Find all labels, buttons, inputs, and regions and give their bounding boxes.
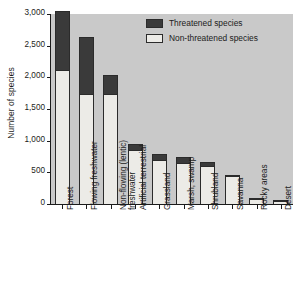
x-axis-tick-label: Marsh, swamp <box>187 157 196 210</box>
y-axis-title: Number of species <box>2 0 20 206</box>
x-axis-labels: ForestFlowing freshwaterNon-flowing (len… <box>50 205 293 295</box>
legend-color-swatch <box>146 19 163 28</box>
x-axis-tick-mark <box>135 205 136 209</box>
x-axis-tick-label-line: Flowing freshwater <box>90 141 99 210</box>
x-axis-tick-label: Grassland <box>163 173 172 210</box>
x-axis-tick-mark <box>232 205 233 209</box>
y-axis: 05001,0001,5002,0002,5003,000 <box>20 14 50 206</box>
x-axis-tick-label-line: Forest <box>66 187 75 210</box>
bar-segment-threatened[interactable] <box>225 175 240 176</box>
x-axis-tick-label-line: Artificial terrestrial <box>139 145 148 210</box>
legend-entry-label: Non-threatened species <box>169 33 258 43</box>
legend-color-swatch <box>146 34 163 43</box>
x-axis-tick-label-line: Rocky areas <box>260 164 269 210</box>
x-axis-tick-label: Flowing freshwater <box>90 141 99 210</box>
y-axis-tick-label: 2,500 <box>25 40 46 49</box>
x-axis-tick-label-line: Grassland <box>163 173 172 210</box>
y-axis-tick-label: 3,000 <box>25 8 46 17</box>
y-axis-tick-label: 1,500 <box>25 103 46 112</box>
x-axis-tick-label: Savanna <box>236 178 245 210</box>
y-axis-tick-label: 1,000 <box>25 135 46 144</box>
legend-entry: Threatened species <box>146 18 296 28</box>
bar-group[interactable] <box>103 75 118 204</box>
y-axis-tick-label: 500 <box>31 166 45 175</box>
chart-figure: Number of species 05001,0001,5002,0002,5… <box>0 0 304 296</box>
bar-segment-threatened[interactable] <box>55 11 70 71</box>
y-axis-tick-label: 0 <box>40 198 45 207</box>
x-axis-tick-mark <box>208 205 209 209</box>
bar-segment-non-threatened[interactable] <box>55 70 70 204</box>
chart-legend: Threatened speciesNon-threatened species <box>146 18 296 48</box>
y-axis-tick-label: 2,000 <box>25 71 46 80</box>
x-axis-tick-label: Shrubland <box>211 173 220 210</box>
x-axis-tick-label-line: Shrubland <box>211 173 220 210</box>
x-axis-tick-label-line: Savanna <box>236 178 245 210</box>
x-axis-tick-mark <box>62 205 63 209</box>
x-axis-tick-mark <box>86 205 87 209</box>
x-axis-tick-mark <box>159 205 160 209</box>
x-axis-tick-label-line: Desert <box>284 186 293 210</box>
x-axis-tick-label: Rocky areas <box>260 164 269 210</box>
bar-group[interactable] <box>55 11 70 204</box>
x-axis-tick-label-line: Non-flowing (lentic) <box>119 140 128 210</box>
bar-segment-non-threatened[interactable] <box>103 94 118 204</box>
legend-entry-label: Threatened species <box>169 18 243 28</box>
x-axis-tick-label: Artificial terrestrial <box>139 145 148 210</box>
x-axis-tick-mark <box>257 205 258 209</box>
y-axis-title-text: Number of species <box>6 67 16 139</box>
x-axis-tick-mark <box>281 205 282 209</box>
bar-segment-threatened[interactable] <box>200 162 215 166</box>
x-axis-tick-mark <box>111 205 112 209</box>
bar-segment-threatened[interactable] <box>152 154 167 159</box>
x-axis-tick-label-line: freshwater <box>128 140 137 210</box>
x-axis-tick-label: Desert <box>284 186 293 210</box>
legend-entry: Non-threatened species <box>146 33 296 43</box>
x-axis-tick-mark <box>184 205 185 209</box>
bar-segment-threatened[interactable] <box>79 37 94 94</box>
x-axis-tick-label: Forest <box>66 187 75 210</box>
x-axis-tick-label-line: Marsh, swamp <box>187 157 196 210</box>
x-axis-tick-label: Non-flowing (lentic)freshwater <box>119 140 137 210</box>
bar-segment-threatened[interactable] <box>103 75 118 93</box>
